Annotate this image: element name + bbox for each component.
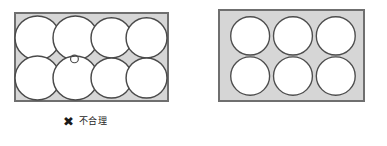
circle-r2c1	[231, 57, 270, 95]
circle-packing-tight	[16, 14, 167, 100]
tray-reasonable	[218, 9, 365, 102]
circle-r1c2	[274, 17, 313, 55]
panel-reasonable: ✓ 合理	[193, 0, 387, 146]
circle-packing-spaced	[220, 11, 363, 100]
tray-unreasonable	[14, 12, 169, 102]
comparison-figure: ✖ 不合理 ✓ 合理	[0, 0, 387, 146]
circle-r2c4	[126, 58, 167, 98]
circle-r1c1	[231, 17, 270, 55]
panel-unreasonable: ✖ 不合理	[0, 0, 193, 146]
cross-mark-icon: ✖	[63, 115, 74, 128]
circle-r1c4	[126, 18, 167, 58]
caption-unreasonable: ✖ 不合理	[63, 115, 107, 128]
caption-label-unreasonable: 不合理	[79, 117, 107, 126]
circle-r2c2	[274, 57, 313, 95]
circle-r1c3	[316, 17, 355, 55]
circle-r2c3	[316, 57, 355, 95]
